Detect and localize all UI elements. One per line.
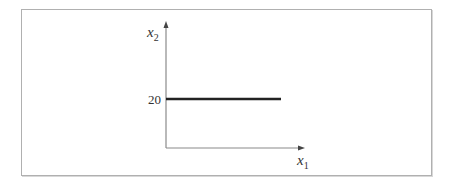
diagram-canvas: x2 x1 20 [0,0,454,187]
x-axis-arrow-icon [298,146,305,151]
y-tick-label-20: 20 [148,92,161,107]
x-axis [166,146,305,151]
x-axis-label: x1 [296,152,309,171]
y-axis-arrow-icon [164,21,169,28]
y-axis-label: x2 [146,24,159,43]
y-axis [164,21,169,148]
